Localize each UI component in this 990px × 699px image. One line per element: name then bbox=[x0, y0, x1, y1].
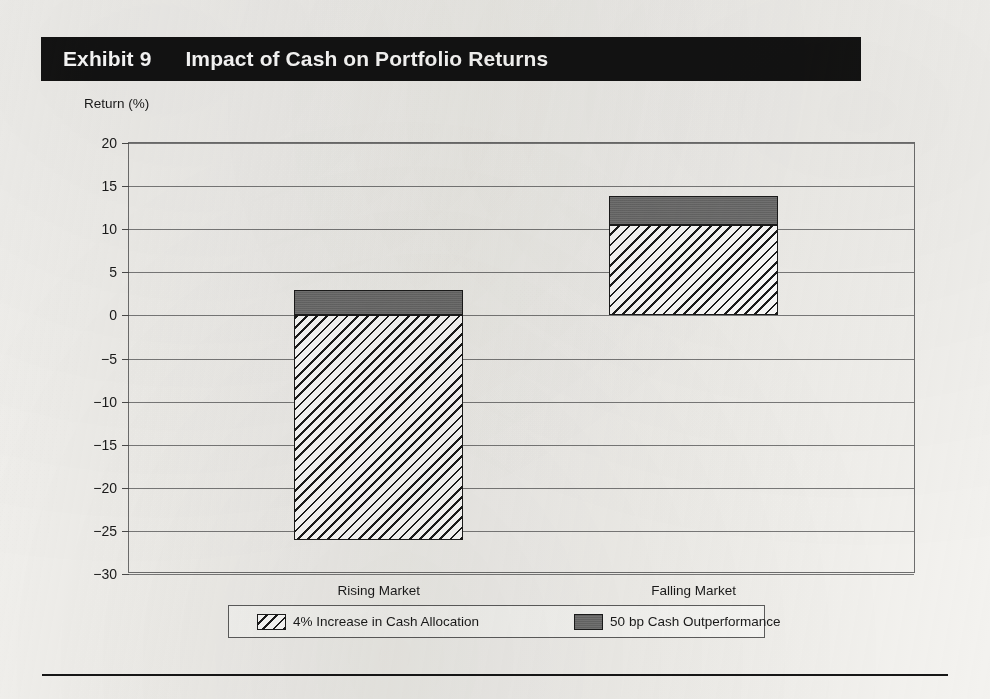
y-axis-tick bbox=[122, 445, 129, 446]
y-axis-tick-label: −15 bbox=[93, 437, 117, 453]
bar-segment-cash-outperformance bbox=[609, 196, 778, 224]
y-axis-tick bbox=[122, 272, 129, 273]
y-axis-tick-label: 0 bbox=[109, 307, 117, 323]
y-axis-tick-label: 15 bbox=[101, 178, 117, 194]
gridline bbox=[129, 574, 914, 575]
y-axis-tick-label: 20 bbox=[101, 135, 117, 151]
chart-legend: 4% Increase in Cash Allocation 50 bp Cas… bbox=[228, 605, 765, 638]
y-axis-tick-label: −20 bbox=[93, 480, 117, 496]
y-axis-tick-label: −25 bbox=[93, 523, 117, 539]
legend-item-cash-outperformance: 50 bp Cash Outperformance bbox=[574, 614, 780, 630]
y-axis-tick bbox=[122, 574, 129, 575]
y-axis-tick bbox=[122, 229, 129, 230]
x-axis-category-label: Falling Market bbox=[651, 583, 736, 598]
x-axis-category-label: Rising Market bbox=[338, 583, 421, 598]
legend-label-cash-outperformance: 50 bp Cash Outperformance bbox=[610, 614, 780, 629]
y-axis-tick bbox=[122, 488, 129, 489]
page-bottom-rule bbox=[42, 674, 948, 676]
bar-chart: Return (%) 20151050−5−10−15−20−25−30Risi… bbox=[0, 0, 990, 699]
legend-swatch-solid-icon bbox=[574, 614, 603, 630]
bar-group-falling-market: Falling Market bbox=[129, 143, 916, 574]
y-axis-tick-label: −10 bbox=[93, 394, 117, 410]
y-axis-tick-label: −30 bbox=[93, 566, 117, 582]
y-axis-tick-label: 10 bbox=[101, 221, 117, 237]
y-axis-tick bbox=[122, 186, 129, 187]
legend-item-cash-allocation: 4% Increase in Cash Allocation bbox=[257, 614, 479, 630]
y-axis-tick bbox=[122, 359, 129, 360]
y-axis-tick bbox=[122, 143, 129, 144]
legend-swatch-hatch-icon bbox=[257, 614, 286, 630]
y-axis-tick bbox=[122, 315, 129, 316]
y-axis-title: Return (%) bbox=[84, 96, 149, 111]
y-axis-tick bbox=[122, 402, 129, 403]
y-axis-tick bbox=[122, 531, 129, 532]
y-axis-tick-label: −5 bbox=[101, 351, 117, 367]
bar-segment-cash-allocation bbox=[609, 225, 778, 316]
legend-label-cash-allocation: 4% Increase in Cash Allocation bbox=[293, 614, 479, 629]
y-axis-tick-label: 5 bbox=[109, 264, 117, 280]
plot-area: 20151050−5−10−15−20−25−30Rising MarketFa… bbox=[128, 142, 915, 573]
